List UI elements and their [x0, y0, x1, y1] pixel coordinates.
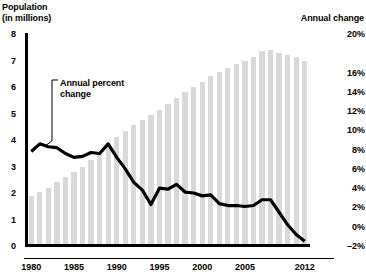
annual-change-polyline — [31, 144, 304, 241]
annotation-line1: Annual percent — [60, 78, 124, 89]
line-series-annual-percent-change — [0, 0, 366, 279]
annotation-leader-line — [44, 80, 58, 147]
chart-container: Population (in millions) Annual change 0… — [0, 0, 366, 279]
annotation-annual-percent-change: Annual percent change — [60, 78, 124, 100]
annotation-line2: change — [60, 89, 124, 100]
